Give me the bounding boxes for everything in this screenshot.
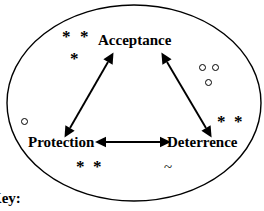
asterisk-marker: * xyxy=(70,50,79,67)
connector-acceptance-deterrence xyxy=(167,62,206,128)
diagram-canvas: Acceptance Protection Deterrence * * * *… xyxy=(0,0,264,211)
tilde-marker: ~ xyxy=(164,160,172,175)
circle-marker xyxy=(205,79,212,86)
circle-marker xyxy=(212,64,219,71)
asterisk-marker: * xyxy=(76,158,85,175)
connector-protection-acceptance xyxy=(70,62,108,128)
node-label-acceptance: Acceptance xyxy=(98,33,171,48)
asterisk-marker: * xyxy=(62,28,71,45)
node-label-protection: Protection xyxy=(28,135,94,150)
node-label-deterrence: Deterrence xyxy=(167,135,238,150)
circle-marker xyxy=(199,64,206,71)
asterisk-marker: * xyxy=(93,158,102,175)
asterisk-marker: * xyxy=(80,28,89,45)
key-caption: Key: xyxy=(0,190,21,207)
circle-marker xyxy=(21,118,28,125)
asterisk-marker: * xyxy=(234,113,243,130)
asterisk-marker: * xyxy=(217,113,226,130)
